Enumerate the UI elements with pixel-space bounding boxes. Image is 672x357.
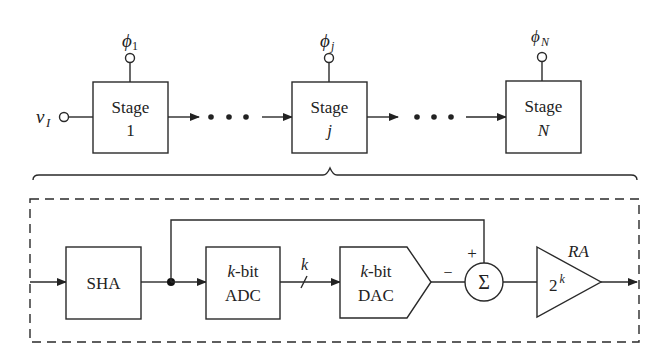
clock-label: ϕ bbox=[122, 30, 132, 51]
clock-label-sub: j bbox=[329, 39, 335, 53]
dac-block: k-bit DAC bbox=[340, 247, 431, 318]
adc-label: ADC bbox=[225, 286, 261, 305]
clock-node-icon bbox=[325, 54, 334, 63]
summing-junction: Σ bbox=[465, 263, 503, 301]
adc-block: k-bit ADC bbox=[206, 247, 280, 319]
sha-label: SHA bbox=[86, 274, 121, 293]
clock-node-icon bbox=[126, 54, 135, 63]
adc-bits-label: -bit bbox=[235, 262, 259, 281]
ellipsis-dots bbox=[208, 114, 249, 120]
sum-plus-sign: + bbox=[467, 244, 477, 263]
stage-box bbox=[292, 82, 367, 153]
clock-label: ϕ bbox=[320, 30, 330, 51]
stage-label: Stage bbox=[311, 98, 349, 117]
sum-minus-sign: − bbox=[443, 264, 452, 281]
stage-n-block: ϕ N Stage N bbox=[506, 27, 581, 153]
clock-node-icon bbox=[538, 53, 547, 62]
stage-index: j bbox=[325, 121, 332, 140]
input-label: v bbox=[36, 106, 45, 127]
svg-text:k-bit: k-bit bbox=[227, 262, 258, 281]
stage-index: N bbox=[537, 121, 551, 140]
stage-label: Stage bbox=[112, 98, 150, 117]
clock-label: ϕ bbox=[531, 27, 540, 46]
expansion-brace bbox=[33, 168, 637, 180]
stage-1-block: ϕ 1 Stage 1 bbox=[93, 30, 168, 153]
stage-j-block: ϕ j Stage j bbox=[292, 30, 367, 153]
pipeline-adc-diagram: v I ϕ 1 Stage 1 ϕ j Stage j ϕ bbox=[0, 0, 672, 357]
stage-box bbox=[93, 82, 168, 153]
dac-label: DAC bbox=[358, 286, 394, 305]
stage-label: Stage bbox=[525, 97, 563, 116]
amp-gain-exp: k bbox=[560, 272, 566, 286]
sigma-icon: Σ bbox=[478, 271, 490, 293]
input-terminal: v I bbox=[36, 106, 93, 130]
clock-label-sub: 1 bbox=[132, 39, 138, 53]
residue-amplifier: 2k RA bbox=[537, 242, 601, 317]
input-node-icon bbox=[60, 113, 69, 122]
dac-bits-label: -bit bbox=[368, 262, 392, 281]
svg-text:k-bit: k-bit bbox=[360, 262, 391, 281]
stage-index: 1 bbox=[126, 121, 135, 140]
input-label-sub: I bbox=[45, 115, 51, 130]
amp-gain-base: 2 bbox=[549, 276, 558, 295]
sha-block: SHA bbox=[66, 247, 141, 319]
stage-box bbox=[506, 81, 581, 153]
ellipsis-dots bbox=[414, 114, 454, 120]
clock-label-sub: N bbox=[540, 35, 550, 49]
amp-label: RA bbox=[567, 242, 589, 261]
bus-width-label: k bbox=[301, 256, 309, 273]
